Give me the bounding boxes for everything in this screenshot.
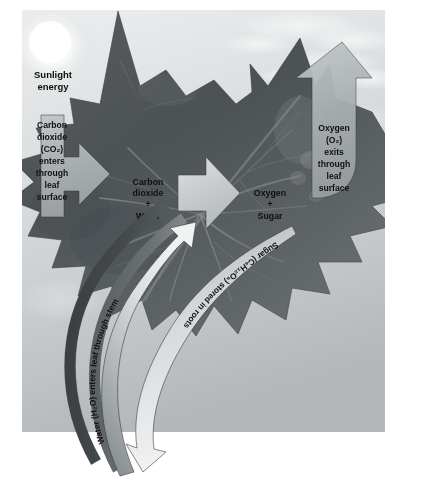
figure-canvas: Carbon dioxide (CO₂) enters through leaf… xyxy=(0,0,434,480)
sunlight-line-1: Sunlight xyxy=(34,69,73,80)
o2-line-1: Oxygen xyxy=(318,123,350,133)
o2-line-3: exits xyxy=(324,147,344,157)
co2-line-6: leaf xyxy=(45,180,60,190)
products-line-1: Oxygen xyxy=(254,188,286,198)
co2-line-5: through xyxy=(36,168,68,178)
photosynthesis-diagram: Carbon dioxide (CO₂) enters through leaf… xyxy=(0,0,434,480)
co2-line-3: (CO₂) xyxy=(41,144,64,154)
co2-line-2: dioxide xyxy=(37,132,67,142)
sunlight-line-2: energy xyxy=(37,81,69,92)
co2-line-1: Carbon xyxy=(37,120,67,130)
co2-line-4: enters xyxy=(39,156,65,166)
o2-line-4: through xyxy=(318,159,350,169)
reactants-plus: + xyxy=(145,199,150,209)
co2-line-7: surface xyxy=(37,192,68,202)
products-line-2: Sugar xyxy=(258,211,284,221)
products-plus: + xyxy=(267,199,272,209)
o2-line-6: surface xyxy=(319,183,350,193)
o2-line-2: (O₂) xyxy=(326,135,342,145)
sunlight-energy-label: Sunlight energy xyxy=(34,69,73,92)
o2-line-5: leaf xyxy=(327,171,342,181)
reactants-line-2: dioxide xyxy=(133,188,164,198)
reactants-line-1: Carbon xyxy=(133,177,164,187)
